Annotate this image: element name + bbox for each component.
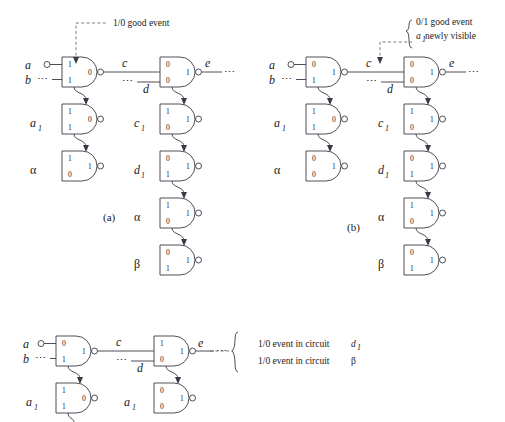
panel-b-gate-alpha-right-in-top: 1 bbox=[410, 201, 414, 210]
panel-c-gate-a1-right: 0 0 1 bbox=[154, 383, 196, 413]
panel-b-net-e-label: e bbox=[449, 56, 455, 70]
panel-b-gate-c1-out: 1 bbox=[430, 115, 434, 124]
panel-c-gate-top-right-in-top: 1 bbox=[160, 339, 164, 348]
panel-a-annotation-pointer bbox=[73, 23, 108, 64]
panel-b-gate-c1-in-top: 1 bbox=[410, 107, 414, 116]
panel-b-gate-a1-in-bottom: 1 bbox=[312, 123, 316, 132]
panel-a-gate-top-left-in-top: 1 bbox=[68, 60, 72, 69]
panel-c-input-a-marker bbox=[38, 341, 44, 347]
panel-a-gate-alpha-left-out: 1 bbox=[88, 162, 92, 171]
circuit-figure: 1/0 good event a b ⋯ 1 1 0 c ⋯ d 0 0 1 e bbox=[0, 0, 505, 422]
panel-b-input-a-label: a bbox=[269, 58, 275, 72]
panel-c-gate-a1-left-in-bottom: 1 bbox=[62, 402, 66, 411]
panel-b-row-a1-label: a bbox=[274, 116, 280, 130]
panel-b-gate-a1: 1 1 0 bbox=[306, 104, 348, 134]
panel-a-input-a-label: a bbox=[25, 58, 31, 72]
panel-a-gate-alpha-left-in-top: 1 bbox=[68, 154, 72, 163]
panel-c-input-b-ellipsis: ⋯ bbox=[35, 352, 47, 364]
panel-b-gate-alpha-left-in-top: 0 bbox=[312, 154, 316, 163]
panel-c-row-a1-left-label: a bbox=[26, 395, 32, 409]
panel-c-net-d-label: d bbox=[137, 361, 144, 375]
panel-a-row-beta-label: β bbox=[134, 257, 140, 271]
panel-b-gate-a1-in-top: 1 bbox=[312, 107, 316, 116]
panel-a-gate-alpha-left: 1 0 1 bbox=[62, 151, 104, 181]
panel-b-gate-c1: 1 0 1 bbox=[404, 104, 446, 134]
panel-c-gate-a1-left-in-top: 1 bbox=[62, 386, 66, 395]
panel-b-gate-alpha-right-out: 1 bbox=[430, 209, 434, 218]
panel-a-row-alpha-left-label: α bbox=[30, 163, 37, 177]
panel-a-net-d-ellipsis: ⋯ bbox=[122, 75, 134, 87]
panel-b-input-a-marker bbox=[288, 62, 294, 68]
panel-a-net-e-label: e bbox=[205, 56, 211, 70]
panel-a-gate-top-right: 0 0 1 bbox=[160, 57, 202, 87]
panel-a-gate-beta-in-bottom: 1 bbox=[166, 264, 170, 273]
panel-b-gate-top-right-in-top: 0 bbox=[410, 60, 414, 69]
panel-c-note-line2-var: β bbox=[351, 356, 356, 366]
panel-a-gate-beta: 0 1 1 bbox=[160, 245, 202, 275]
panel-b-gate-c1-in-bottom: 0 bbox=[410, 123, 414, 132]
panel-c-net-e-ellipsis: ⋯ bbox=[216, 345, 228, 357]
panel-b-gate-alpha-left: 0 0 1 bbox=[306, 151, 348, 181]
panel-b-gate-alpha-left-in-bottom: 0 bbox=[312, 170, 316, 179]
panel-c-gate-a1-right-in-top: 0 bbox=[160, 386, 164, 395]
panel-b-gate-d1-in-bottom: 1 bbox=[410, 170, 414, 179]
panel-b-row-d1-label: d bbox=[378, 163, 385, 177]
panel-b-net-d-ellipsis: ⋯ bbox=[366, 75, 378, 87]
panel-a-row-d1-sub: 1 bbox=[141, 171, 145, 180]
panel-a-row-a1-label: a bbox=[30, 116, 36, 130]
panel-c-gate-top-right: 1 0 1 bbox=[154, 336, 196, 366]
panel-c-gate-a1-right-out: 1 bbox=[180, 394, 184, 403]
panel-b-gate-d1: 0 1 1 bbox=[404, 151, 446, 181]
panel-c-net-c-label: c bbox=[116, 335, 122, 349]
panel-b-gate-alpha-right-in-bottom: 0 bbox=[410, 217, 414, 226]
panel-a-gate-d1: 0 1 1 bbox=[160, 151, 202, 181]
panel-b-input-b-ellipsis: ⋯ bbox=[281, 73, 293, 85]
panel-a-gate-alpha-right-in-bottom: 0 bbox=[166, 217, 170, 226]
panel-b-input-b-label: b bbox=[269, 73, 275, 87]
panel-c-note-line2-pre: 1/0 event in circuit bbox=[258, 356, 330, 366]
panel-c-row-a1-right-sub: 1 bbox=[132, 403, 136, 412]
panel-b-gate-top-left-in-top: 0 bbox=[312, 60, 316, 69]
panel-c-gate-a1-left-out: 0 bbox=[82, 394, 86, 403]
figure-root: 1/0 good event a b ⋯ 1 1 0 c ⋯ d 0 0 1 e bbox=[0, 0, 505, 422]
panel-c-gate-a1-right-in-bottom: 0 bbox=[160, 402, 164, 411]
panel-b-gate-top-right-out: 1 bbox=[430, 68, 434, 77]
panel-c-net-e-label: e bbox=[198, 336, 204, 350]
panel-b-gate-beta-in-bottom: 1 bbox=[410, 264, 414, 273]
panel-a-gate-c1-in-top: 1 bbox=[166, 107, 170, 116]
panel-b-gate-beta-in-top: 0 bbox=[410, 248, 414, 257]
panel-a-row-c1-label: c bbox=[134, 116, 140, 130]
panel-b-row-beta-label: β bbox=[378, 257, 384, 271]
panel-c-row-a1-right-label: a bbox=[124, 395, 130, 409]
panel-c-note-line1-sub: 1 bbox=[357, 343, 361, 352]
panel-c: a b ⋯ 0 1 1 c ⋯ d 1 0 1 e ⋯ 1/0 event in… bbox=[23, 332, 361, 422]
panel-a-row-c1-sub: 1 bbox=[141, 124, 145, 133]
panel-a-gate-c1-out: 1 bbox=[186, 115, 190, 124]
panel-a-gate-c1-in-bottom: 0 bbox=[166, 123, 170, 132]
panel-b-row-alpha-left-label: α bbox=[274, 163, 281, 177]
panel-a-gate-d1-in-bottom: 1 bbox=[166, 170, 170, 179]
panel-a-gate-beta-in-top: 0 bbox=[166, 248, 170, 257]
panel-a-gate-d1-in-top: 0 bbox=[166, 154, 170, 163]
panel-b-gate-alpha-right: 1 0 1 bbox=[404, 198, 446, 228]
panel-a-input-a-marker bbox=[44, 62, 50, 68]
panel-c-note-line1-var: d bbox=[351, 339, 356, 349]
panel-b-gate-beta-out: 1 bbox=[430, 256, 434, 265]
panel-a-gate-alpha-left-in-bottom: 0 bbox=[68, 170, 72, 179]
panel-c-gate-a1-left: 1 1 0 bbox=[56, 383, 98, 413]
panel-a-gate-top-left-out: 0 bbox=[88, 68, 92, 77]
panel-b-row-c1-label: c bbox=[378, 116, 384, 130]
panel-b-gate-top-left-in-bottom: 1 bbox=[312, 76, 316, 85]
panel-b-gate-alpha-left-out: 1 bbox=[332, 162, 336, 171]
panel-a-net-c-label: c bbox=[122, 56, 128, 70]
panel-b-net-e-ellipsis: ⋯ bbox=[468, 66, 480, 78]
panel-a-gate-top-right-in-bottom: 0 bbox=[166, 76, 170, 85]
panel-c-note-line1-pre: 1/0 event in circuit bbox=[258, 339, 330, 349]
panel-b-annotation-line2-var: a bbox=[416, 31, 421, 41]
panel-a-gate-a1-in-top: 1 bbox=[68, 107, 72, 116]
panel-b-gate-top-right-in-bottom: 0 bbox=[410, 76, 414, 85]
panel-b: 0/1 good event a 1 newly visible a b ⋯ 0… bbox=[269, 17, 480, 275]
panel-a-input-b-label: b bbox=[25, 73, 31, 87]
panel-b-gate-d1-in-top: 0 bbox=[410, 154, 414, 163]
panel-a-annotation-text: 1/0 good event bbox=[113, 18, 170, 28]
